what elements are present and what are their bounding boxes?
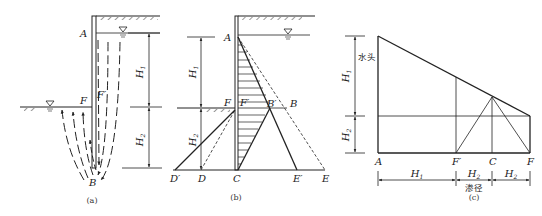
dimension-label-h1: H1 bbox=[410, 168, 424, 180]
line-d-prime-f bbox=[175, 110, 235, 170]
point-label-a: A bbox=[223, 32, 231, 43]
sheet-pile-wall bbox=[92, 16, 96, 168]
figure-a: H1 H2 A F F′ B (a) bbox=[20, 16, 162, 205]
dimension-lines bbox=[122, 33, 162, 168]
figure-b: H1 H2 A F F′ B′ B D′ D C E′ E (b) bbox=[169, 16, 330, 202]
point-label-f-prime: F′ bbox=[451, 156, 462, 167]
point-label-d: D bbox=[197, 173, 206, 184]
point-label-f-prime: F′ bbox=[96, 89, 107, 100]
dimension-label-h2: H2 bbox=[467, 168, 481, 180]
seepage-path-label: 渗径 bbox=[465, 183, 483, 193]
dimension-lines bbox=[187, 37, 215, 169]
point-label-f: F bbox=[526, 156, 535, 167]
line-f-prime-c bbox=[456, 97, 492, 153]
point-label-c: C bbox=[489, 156, 497, 167]
figure-caption-b: (b) bbox=[230, 193, 241, 202]
point-label-e: E bbox=[321, 173, 330, 184]
seepage-flow-lines bbox=[62, 40, 120, 180]
figure-caption-a: (a) bbox=[86, 196, 97, 205]
line-d-f-dashed bbox=[201, 110, 235, 170]
point-label-b-prime: B′ bbox=[266, 98, 277, 109]
ground-hatch bbox=[242, 17, 302, 20]
dimension-label-h1: H1 bbox=[134, 66, 146, 80]
ground-hatch bbox=[100, 17, 158, 20]
point-label-d-prime: D′ bbox=[169, 173, 181, 184]
water-level-icon bbox=[46, 101, 54, 111]
point-label-f: F bbox=[223, 97, 232, 108]
head-loss-line bbox=[378, 36, 530, 116]
sheet-pile-wall bbox=[235, 16, 238, 170]
point-label-f: F bbox=[79, 95, 88, 106]
point-label-b: B bbox=[88, 177, 96, 188]
water-level-icon bbox=[284, 29, 292, 39]
dimension-label-h2: H2 bbox=[340, 129, 352, 143]
dimension-label-h2: H2 bbox=[187, 134, 199, 148]
point-label-e-prime: E′ bbox=[292, 173, 303, 184]
line-a-e-dashed bbox=[238, 37, 325, 170]
point-label-a: A bbox=[79, 28, 87, 39]
dimension-label-h1: H1 bbox=[340, 70, 352, 84]
head-axis-label: 水头 bbox=[358, 52, 376, 62]
dimension-label-h2: H2 bbox=[504, 168, 518, 180]
figure-caption-c: (c) bbox=[469, 193, 480, 202]
point-label-c: C bbox=[233, 173, 241, 184]
dimension-label-h2: H2 bbox=[134, 134, 146, 148]
point-label-b: B bbox=[289, 98, 297, 109]
water-level-icon bbox=[119, 27, 127, 37]
ground-hatch bbox=[24, 108, 36, 111]
dimension-label-h1: H1 bbox=[187, 66, 199, 80]
point-label-a: A bbox=[374, 156, 382, 167]
diagram-canvas: H1 H2 A F F′ B (a) bbox=[0, 0, 542, 216]
figure-c: H1 H2 水头 A F′ C F H1 H2 H2 渗径 (c) bbox=[340, 36, 535, 202]
line-c-b-prime bbox=[238, 108, 270, 170]
ground-hatch bbox=[205, 109, 230, 112]
point-label-f-prime: F′ bbox=[239, 97, 250, 108]
